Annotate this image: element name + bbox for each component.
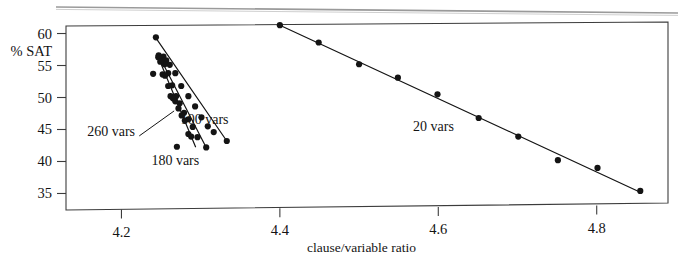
data-point: [185, 93, 191, 99]
data-point: [316, 39, 322, 45]
data-point: [150, 71, 156, 77]
series-points-260-vars: [150, 54, 194, 150]
series-annotation-20-vars: 20 vars: [413, 119, 454, 134]
data-point: [356, 61, 362, 67]
scatter-plot-svg: 605550454035% SAT4.24.44.64.8clause/vari…: [0, 0, 685, 273]
data-point: [224, 138, 230, 144]
data-point: [434, 91, 440, 97]
x-tick-label-4.8: 4.8: [588, 220, 606, 236]
series-annotation-180-vars: 180 vars: [151, 153, 199, 168]
data-point: [395, 75, 401, 81]
y-tick-label-50: 50: [38, 90, 53, 106]
y-tick-label-55: 55: [38, 58, 53, 74]
y-tick-label-60: 60: [38, 26, 53, 42]
x-axis-label: clause/variable ratio: [307, 240, 416, 255]
series-annotation-260-vars: 260 vars: [87, 124, 135, 139]
leader-line-260-vars: [139, 111, 174, 136]
fit-line-20-vars: [280, 25, 640, 192]
x-tick-label-4.2: 4.2: [112, 224, 130, 240]
y-tick-label-45: 45: [38, 121, 53, 137]
data-point: [594, 165, 600, 171]
data-point: [178, 83, 184, 89]
y-tick-label-40: 40: [38, 153, 53, 169]
data-point: [165, 83, 171, 89]
x-tick-label-4.6: 4.6: [429, 221, 447, 237]
data-point: [188, 133, 194, 139]
data-point: [153, 34, 159, 40]
data-point: [515, 133, 521, 139]
data-point: [211, 129, 217, 135]
data-point: [203, 144, 209, 150]
data-point: [194, 134, 200, 140]
data-point: [277, 22, 283, 28]
data-point: [175, 105, 181, 111]
figure-container: 605550454035% SAT4.24.44.64.8clause/vari…: [0, 0, 685, 273]
data-point: [555, 157, 561, 163]
y-axis-label: % SAT: [11, 43, 53, 59]
y-tick-label-35: 35: [38, 185, 53, 201]
data-point: [192, 103, 198, 109]
plot-frame: [66, 22, 668, 210]
series-annotation-100-vars: 100 vars: [181, 112, 229, 127]
data-point: [637, 188, 643, 194]
data-point: [174, 144, 180, 150]
data-point: [476, 115, 482, 121]
data-point: [172, 70, 178, 76]
data-point: [157, 59, 163, 65]
data-point: [172, 98, 178, 104]
data-point: [162, 73, 168, 79]
x-tick-label-4.4: 4.4: [271, 222, 290, 238]
